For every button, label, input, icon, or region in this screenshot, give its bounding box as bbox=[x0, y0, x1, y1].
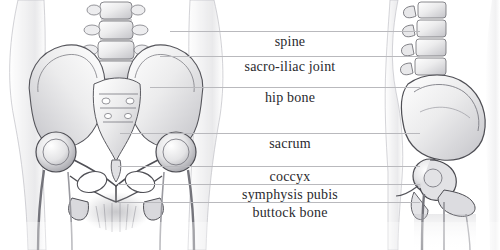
lateral-view-group bbox=[385, 0, 500, 250]
label-sacrum: sacrum bbox=[190, 136, 390, 152]
lateral-lumbar-spine bbox=[400, 2, 446, 75]
label-hip-bone: hip bone bbox=[190, 90, 390, 106]
anatomy-figure: spine sacro-iliac joint hip bone sacrum … bbox=[0, 0, 500, 250]
label-spine: spine bbox=[190, 34, 390, 50]
label-symphysis-pubis: symphysis pubis bbox=[190, 187, 390, 203]
label-sacro-iliac-joint: sacro-iliac joint bbox=[190, 59, 390, 75]
label-buttock-bone: buttock bone bbox=[190, 205, 390, 221]
label-coccyx: coccyx bbox=[190, 169, 390, 185]
